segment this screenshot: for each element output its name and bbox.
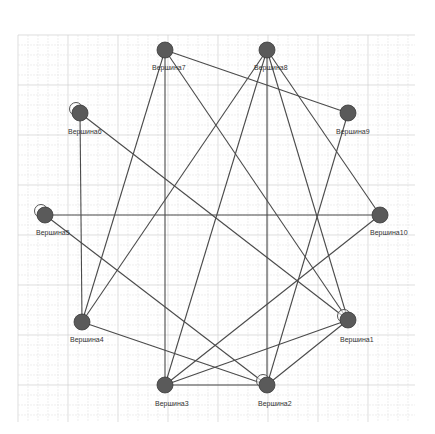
node-circle[interactable]: [259, 377, 275, 393]
node-circle[interactable]: [74, 314, 90, 330]
node-label: Вершина1: [340, 336, 374, 344]
edge-n6-n4[interactable]: [80, 113, 82, 322]
node-label: Вершина8: [254, 64, 288, 72]
graph-canvas: Вершина1Вершина2Вершина3Вершина4Вершина5…: [0, 0, 435, 434]
node-circle[interactable]: [157, 377, 173, 393]
edge-n7-n9[interactable]: [165, 50, 348, 113]
node-n9[interactable]: Вершина9: [336, 105, 370, 136]
node-circle[interactable]: [340, 105, 356, 121]
node-label: Вершина2: [258, 400, 292, 408]
node-circle[interactable]: [340, 312, 356, 328]
node-n3[interactable]: Вершина3: [155, 377, 189, 408]
node-n4[interactable]: Вершина4: [70, 314, 104, 344]
node-circle[interactable]: [37, 207, 53, 223]
node-n8[interactable]: Вершина8: [254, 42, 288, 72]
node-label: Вершина7: [152, 64, 186, 72]
node-circle[interactable]: [259, 42, 275, 58]
node-label: Вершина9: [336, 128, 370, 136]
node-circle[interactable]: [372, 207, 388, 223]
node-circle[interactable]: [72, 105, 88, 121]
grid: [18, 35, 415, 422]
node-label: Вершина4: [70, 336, 104, 344]
node-n10[interactable]: Вершина10: [370, 207, 408, 237]
node-label: Вершина5: [36, 229, 70, 237]
node-n6[interactable]: Вершина6: [68, 103, 102, 137]
node-n7[interactable]: Вершина7: [152, 42, 186, 72]
node-circle[interactable]: [157, 42, 173, 58]
node-label: Вершина3: [155, 400, 189, 408]
node-label: Вершина6: [68, 128, 102, 136]
node-label: Вершина10: [370, 229, 408, 237]
edge-n4-n2[interactable]: [82, 322, 267, 385]
edge-n7-n4[interactable]: [82, 50, 165, 322]
